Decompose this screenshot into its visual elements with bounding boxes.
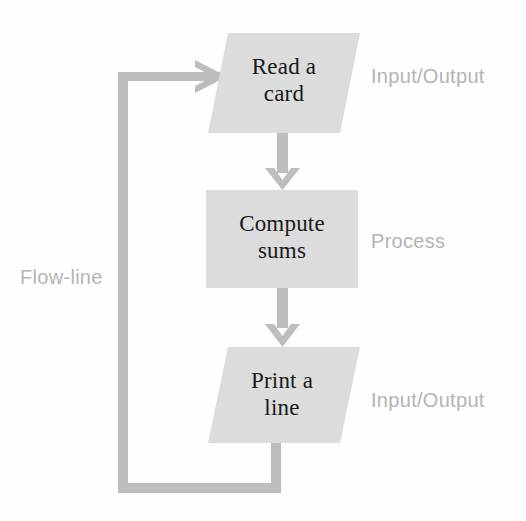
annotation-flow-line: Flow-line <box>20 266 103 289</box>
connector-read-to-compute <box>265 133 300 190</box>
annotation-input-output-top: Input/Output <box>371 65 485 88</box>
node-read-a-card <box>208 33 360 133</box>
connector-compute-to-print <box>265 288 300 347</box>
annotation-input-output-bottom: Input/Output <box>371 389 485 412</box>
flowchart-canvas: Read a card Compute sums Print a line In… <box>0 0 526 521</box>
node-compute-sums <box>206 190 358 288</box>
annotation-process: Process <box>371 230 445 253</box>
node-print-a-line <box>208 347 360 443</box>
